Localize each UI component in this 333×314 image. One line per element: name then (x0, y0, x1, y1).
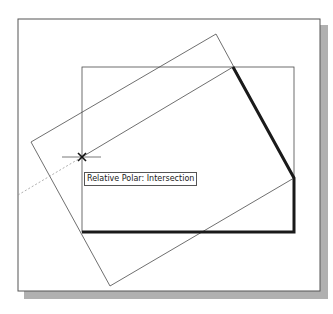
drawing-frame (18, 19, 320, 291)
drawing-canvas[interactable] (0, 0, 333, 314)
snap-tooltip: Relative Polar: Intersection (84, 172, 197, 186)
